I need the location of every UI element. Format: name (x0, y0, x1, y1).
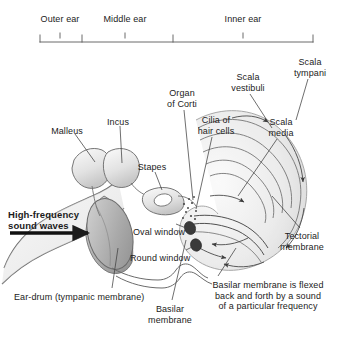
label-round-window: Round window (130, 253, 190, 264)
label-oval-window: Oval window (133, 227, 185, 238)
label-tectorial-membrane: Tectorial membrane (280, 231, 324, 252)
label-scala-media: Scala media (268, 117, 293, 138)
label-stapes: Stapes (138, 162, 167, 173)
label-incus: Incus (107, 117, 129, 128)
scale-bar (40, 33, 313, 42)
scale-label-middle-ear: Middle ear (103, 14, 146, 25)
scale-label-outer-ear: Outer ear (41, 14, 80, 25)
label-cilia-of-hair-cells: Cilia of hair cells (198, 115, 235, 136)
label-scala-vestibuli: Scala vestibuli (231, 72, 264, 93)
label-organ-of-corti: Organ of Corti (167, 88, 197, 109)
label-malleus: Malleus (51, 126, 83, 137)
label-high-frequency-sound-waves: High-frequency sound waves (8, 209, 79, 231)
scale-label-inner-ear: Inner ear (225, 14, 262, 25)
ear-anatomy-diagram: Outer ear Middle ear Inner ear Scala tym… (0, 0, 339, 344)
label-basilar-membrane: Basilar membrane (148, 304, 192, 325)
label-basilar-membrane-caption: Basilar membrane is flexed back and fort… (212, 280, 323, 312)
stapes-bone (142, 188, 196, 215)
label-scala-tympani: Scala tympani (294, 57, 326, 78)
label-ear-drum: Ear-drum (tympanic membrane) (14, 292, 144, 303)
